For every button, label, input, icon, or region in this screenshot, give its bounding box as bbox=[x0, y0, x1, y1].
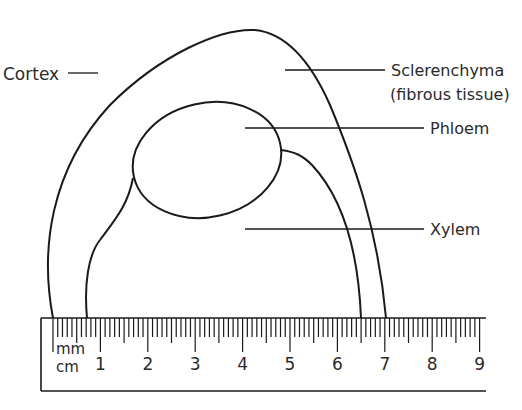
phloem-oval bbox=[121, 88, 293, 233]
cm-label: 1 bbox=[95, 354, 106, 374]
vascular-bundle-diagram: Cortex Sclerenchyma (fibrous tissue) Phl… bbox=[0, 0, 522, 410]
ruler-mm-unit: mm bbox=[56, 340, 85, 358]
ruler-cm-labels: 123456789 bbox=[95, 354, 485, 374]
cm-label: 2 bbox=[142, 354, 153, 374]
cm-label: 7 bbox=[379, 354, 390, 374]
cm-label: 6 bbox=[332, 354, 343, 374]
ruler-ticks bbox=[53, 318, 480, 352]
cm-label: 8 bbox=[427, 354, 438, 374]
ruler: 123456789 mm cm bbox=[41, 318, 486, 391]
cm-label: 3 bbox=[190, 354, 201, 374]
inner-boundary bbox=[86, 178, 133, 318]
cm-label: 5 bbox=[285, 354, 296, 374]
cortex-label: Cortex bbox=[3, 64, 59, 84]
phloem-label: Phloem bbox=[430, 119, 489, 138]
inner-boundary-right bbox=[281, 150, 361, 318]
outer-boundary bbox=[48, 30, 386, 318]
sclerenchyma-sublabel: (fibrous tissue) bbox=[390, 85, 510, 104]
cm-label: 9 bbox=[474, 354, 485, 374]
sclerenchyma-label: Sclerenchyma bbox=[391, 61, 504, 80]
ruler-cm-unit: cm bbox=[56, 358, 79, 376]
xylem-label: Xylem bbox=[430, 220, 480, 239]
cm-label: 4 bbox=[237, 354, 248, 374]
